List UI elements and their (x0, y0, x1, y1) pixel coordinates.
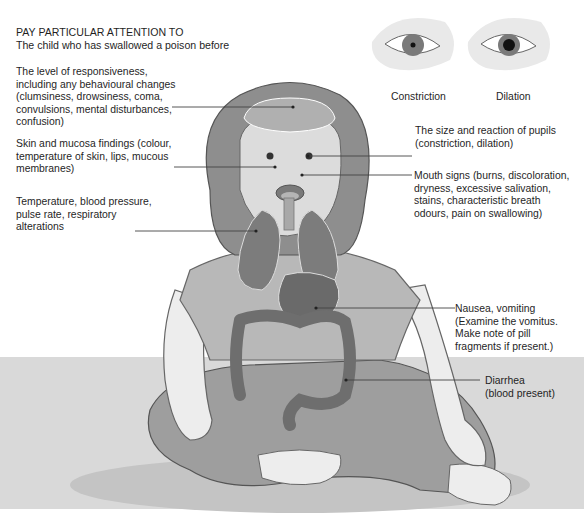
label-vitals: Temperature, blood pressure, pulse rate,… (16, 196, 152, 234)
constriction-label: Constriction (391, 91, 446, 102)
dilation-label: Dilation (496, 91, 531, 102)
label-nausea: Nausea, vomiting (Examine the vomitus. M… (455, 303, 558, 353)
label-pupils: The size and reaction of pupils (constri… (415, 125, 556, 150)
label-diarrhea: Diarrhea (blood present) (485, 375, 555, 400)
label-skin-mucosa: Skin and mucosa findings (colour, temper… (16, 138, 171, 176)
dilation-eye-icon (468, 18, 550, 70)
constriction-eye-icon (372, 18, 454, 70)
page-heading: PAY PARTICULAR ATTENTION TO The child wh… (16, 26, 229, 52)
heading-subtitle: The child who has swallowed a poison bef… (16, 39, 229, 52)
label-mouth-signs: Mouth signs (burns, discoloration, dryne… (414, 170, 569, 220)
heading-title: PAY PARTICULAR ATTENTION TO (16, 26, 229, 39)
label-responsiveness: The level of responsiveness, including a… (16, 66, 175, 129)
